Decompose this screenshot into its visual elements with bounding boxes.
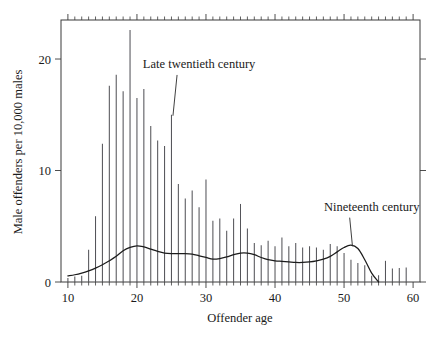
offender-age-chart: 102030405060 01020 Late twentieth centur… xyxy=(0,0,447,338)
y-axis-title: Male offenders per 10,000 males xyxy=(11,70,25,235)
x-tick-label-40: 40 xyxy=(269,291,282,305)
x-tick-label-50: 50 xyxy=(338,291,351,305)
x-axis-title: Offender age xyxy=(207,311,273,325)
y-tick-label-0: 0 xyxy=(45,276,51,290)
annotation-label-1: Nineteenth century xyxy=(324,200,420,214)
x-tick-label-60: 60 xyxy=(407,291,420,305)
y-tick-label-20: 20 xyxy=(39,53,52,67)
y-tick-label-10: 10 xyxy=(39,164,52,178)
chart-figure: 102030405060 01020 Late twentieth centur… xyxy=(0,0,447,338)
x-tick-label-30: 30 xyxy=(200,291,213,305)
annotation-label-0: Late twentieth century xyxy=(143,57,256,71)
x-tick-label-10: 10 xyxy=(62,291,75,305)
x-tick-label-20: 20 xyxy=(131,291,144,305)
chart-background xyxy=(0,0,447,338)
